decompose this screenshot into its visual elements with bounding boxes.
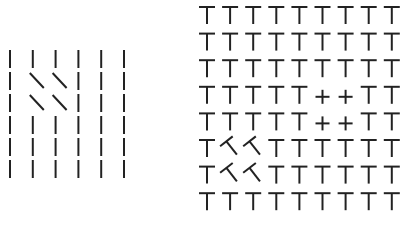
- t-element: [199, 87, 215, 104]
- t-element: [245, 60, 261, 77]
- t-element: [222, 34, 238, 51]
- t-element: [291, 140, 307, 157]
- t-element: [268, 87, 284, 104]
- t-element: [361, 34, 377, 51]
- t-element: [245, 34, 261, 51]
- t-element: [338, 7, 354, 24]
- right-texture-panel: [190, 0, 411, 225]
- t-element: [315, 7, 331, 24]
- t-element: [268, 140, 284, 157]
- t-element: [268, 34, 284, 51]
- t-element: [199, 140, 215, 157]
- t-element: [315, 140, 331, 157]
- plus-element: [339, 116, 353, 130]
- t-element: [199, 34, 215, 51]
- t-element: [338, 193, 354, 210]
- plus-element: [316, 90, 330, 104]
- t-element: [291, 167, 307, 184]
- t-element: [222, 7, 238, 24]
- t-element: [338, 60, 354, 77]
- t-element: [291, 87, 307, 104]
- t-element: [291, 34, 307, 51]
- diagonal-line-element: [53, 73, 67, 88]
- t-element: [384, 87, 400, 104]
- t-element: [384, 193, 400, 210]
- diagonal-line-element: [30, 73, 44, 88]
- t-element: [361, 87, 377, 104]
- t-element: [338, 167, 354, 184]
- left-texture-panel: [0, 0, 150, 225]
- t-element: [384, 113, 400, 130]
- t-element: [245, 87, 261, 104]
- diagonal-line-element: [53, 95, 67, 110]
- t-element: [291, 193, 307, 210]
- t-element: [268, 7, 284, 24]
- t-element: [384, 167, 400, 184]
- t-element: [291, 60, 307, 77]
- t-element: [268, 167, 284, 184]
- t-element: [315, 167, 331, 184]
- t-element: [245, 113, 261, 130]
- t-element: [338, 34, 354, 51]
- t-element: [361, 113, 377, 130]
- t-element: [291, 113, 307, 130]
- t-element: [268, 193, 284, 210]
- t-element: [268, 113, 284, 130]
- t-element: [384, 60, 400, 77]
- t-element: [268, 60, 284, 77]
- t-element: [384, 34, 400, 51]
- tilted-t-element: [243, 163, 266, 186]
- t-element: [361, 140, 377, 157]
- t-element: [222, 87, 238, 104]
- t-element: [245, 193, 261, 210]
- t-element: [361, 167, 377, 184]
- t-element: [199, 167, 215, 184]
- t-element: [222, 193, 238, 210]
- plus-element: [339, 90, 353, 104]
- tilted-t-element: [243, 136, 266, 159]
- t-element: [361, 7, 377, 24]
- t-element: [245, 7, 261, 24]
- t-element: [199, 7, 215, 24]
- tilted-t-element: [220, 163, 243, 186]
- t-element: [338, 140, 354, 157]
- plus-element: [316, 116, 330, 130]
- t-element: [291, 7, 307, 24]
- t-element: [222, 113, 238, 130]
- t-element: [361, 60, 377, 77]
- t-element: [222, 60, 238, 77]
- t-element: [315, 193, 331, 210]
- t-element: [199, 60, 215, 77]
- t-element: [361, 193, 377, 210]
- tilted-t-element: [220, 136, 243, 159]
- t-element: [315, 60, 331, 77]
- t-element: [199, 113, 215, 130]
- t-element: [384, 7, 400, 24]
- t-element: [315, 34, 331, 51]
- t-texture-grid: [190, 0, 411, 225]
- line-texture-grid: [0, 0, 150, 225]
- t-element: [199, 193, 215, 210]
- t-element: [384, 140, 400, 157]
- diagonal-line-element: [30, 95, 44, 110]
